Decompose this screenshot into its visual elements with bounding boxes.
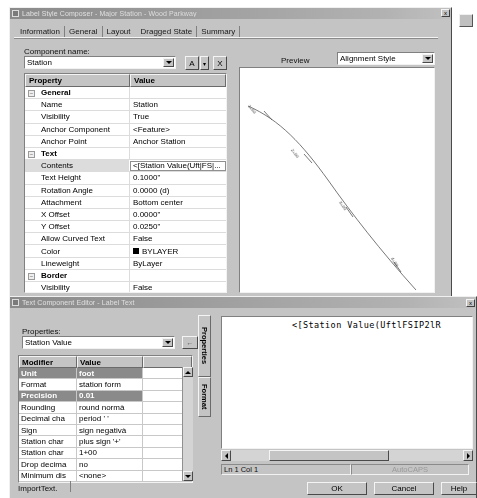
table-row[interactable]: −Text [25,148,226,160]
text-style-button[interactable]: A [185,56,199,70]
modifier-row[interactable]: Rounding round normà [19,402,192,413]
modifier-row[interactable]: Station char plus sign '+' [19,436,192,447]
table-row[interactable]: Color BYLAYER [25,245,226,257]
window-title: Label Style Composer - Major Station - W… [22,10,450,17]
modifier-grid-scrollbar[interactable] [182,367,193,481]
modifier-row[interactable]: Drop decima no [19,459,192,470]
preview-canvas[interactable]: 1+00 2+00 3+00 4+00 [239,67,435,293]
tab-summary[interactable]: Summary [197,26,240,37]
autocaps-indicator: AutoCAPS [351,464,469,475]
table-row[interactable]: X Offset 0.0000" [25,209,226,221]
close-x-icon: X [217,59,222,68]
component-name-label: Component name: [24,47,90,56]
component-name-value: Station [25,58,163,67]
table-row[interactable]: −General [25,87,226,99]
label-style-composer-titlebar[interactable]: Label Style Composer - Major Station - W… [10,8,451,19]
text-editor-area[interactable]: <[Station Value(UftlFSIP2lR [221,316,473,449]
property-grid-header: Property Value [25,74,226,87]
contents-value-editor[interactable]: <[Station Value(Uft|FS|... [130,161,226,171]
delete-component-button[interactable]: X [213,56,227,70]
table-row[interactable]: Text Height 0.1000" [25,172,226,184]
tab-information[interactable]: Information [16,26,65,37]
modifier-grid-header: Modifier Value [19,356,192,368]
modifier-row[interactable]: Minimum dis <none> [19,471,192,482]
chevron-down-icon[interactable] [163,58,174,67]
editor-window-title: Text Component Editor - Label Text [22,299,466,306]
help-button[interactable]: Help [441,482,477,495]
toolbar-icon-2[interactable] [459,14,473,27]
modifier-row[interactable]: Format station form [19,379,192,390]
modifier-row[interactable]: Unit foot [19,368,192,379]
text-style-label: A [189,59,194,68]
component-name-combo[interactable]: Station [24,56,176,69]
import-text-button[interactable]: ImportText. [18,484,58,493]
preview-mode-combo[interactable]: Alignment Style [337,52,435,65]
scroll-up-button[interactable] [183,367,193,377]
modifier-grid[interactable]: Modifier Value Unit foot Format station … [18,355,193,483]
table-row[interactable]: Allow Curved Text False [25,233,226,245]
alignment-preview-graphic [240,68,435,293]
editor-hscrollbar[interactable] [221,450,473,461]
hscroll-thumb[interactable] [269,450,389,461]
tab-layout[interactable]: Layout [103,26,137,37]
editor-close-button[interactable]: x [466,299,475,307]
scroll-left-button[interactable] [221,450,231,461]
properties-label: Properties: [22,327,61,336]
column-header-value: Value [130,74,226,87]
modifier-row[interactable]: Station char 1+00 [19,448,192,459]
scroll-right-button[interactable] [463,450,473,461]
table-row[interactable]: Attachment Bottom center [25,197,226,209]
modifier-row[interactable]: Decimal cha period ' ' [19,414,192,425]
cancel-button[interactable]: Cancel [374,482,434,495]
column-header-modifier: Modifier [19,356,77,368]
tab-dragged-state[interactable]: Dragged State [137,26,198,37]
preview-label: Preview [281,56,309,65]
text-component-editor-titlebar[interactable]: Text Component Editor - Label Text x [10,297,476,308]
table-row[interactable]: Rotation Angle 0.0000 (d) [25,185,226,197]
modifier-row[interactable]: Precision 0.01 [19,391,192,402]
scroll-down-button[interactable] [183,471,193,481]
column-header-property: Property [25,74,130,87]
color-swatch [133,248,139,254]
chevron-down-icon[interactable] [162,338,173,347]
table-row[interactable]: −Border [25,270,226,282]
chevron-down-icon[interactable] [422,54,433,63]
insert-property-button[interactable]: ← [182,336,198,349]
vtab-format[interactable]: Format [198,377,211,417]
ok-button[interactable]: OK [307,482,367,495]
close-icon: x [469,300,472,306]
editor-vertical-tabs: Properties Format [198,315,211,433]
property-grid[interactable]: Property Value −General Name Station Vis… [24,73,227,293]
caret-position-indicator: Ln 1 Col 1 [221,464,351,475]
close-icon: x [444,10,447,16]
arrow-left-icon: ← [187,339,194,346]
column-header-value: Value [77,356,143,368]
table-row[interactable]: Anchor Component <Feature> [25,124,226,136]
table-row[interactable]: Y Offset 0.0250" [25,221,226,233]
collapse-icon[interactable]: − [28,90,35,97]
properties-value: Station Value [23,338,162,347]
table-row-contents-selected[interactable]: Contents <[Station Value(Uft|FS|... [25,160,226,172]
table-row[interactable]: Anchor Point Anchor Station [25,136,226,148]
editor-content: <[Station Value(UftlFSIP2lR [292,320,441,330]
label-style-tabstrip: Information General Layout Dragged State… [16,23,436,37]
window-menu-icon[interactable] [12,299,19,306]
editor-statusbar: Ln 1 Col 1 AutoCAPS [221,463,473,475]
table-row[interactable]: Visibility False [25,282,226,293]
tab-general[interactable]: General [65,26,102,37]
vtab-properties[interactable]: Properties [198,315,211,377]
tabstrip-divider [14,37,438,39]
properties-combo[interactable]: Station Value [22,336,175,349]
window-menu-icon[interactable] [12,10,19,17]
screenshot-root: Label Style Composer - Major Station - W… [0,0,477,498]
text-style-dropdown-button[interactable]: ▾ [200,56,209,70]
preview-mode-value: Alignment Style [338,54,422,63]
table-row[interactable]: Lineweight ByLayer [25,258,226,270]
table-row[interactable]: Visibility True [25,111,226,123]
collapse-icon[interactable]: − [28,151,35,158]
collapse-icon[interactable]: − [28,273,35,280]
modifier-row[interactable]: Sign sign negativà [19,425,192,436]
import-text-divider [70,481,71,492]
table-row[interactable]: Name Station [25,99,226,111]
label-style-close-button[interactable]: x [441,9,450,17]
